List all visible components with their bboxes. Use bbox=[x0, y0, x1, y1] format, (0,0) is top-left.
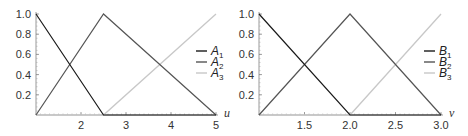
y-tick-label: 0.4 bbox=[239, 69, 254, 81]
y-tick-label: 0.8 bbox=[16, 28, 31, 40]
x-axis-label: u bbox=[224, 106, 230, 120]
x-tick-label: 4 bbox=[168, 119, 174, 131]
y-tick-label: 1.0 bbox=[239, 8, 254, 20]
fuzzy-membership-charts: 23450.20.40.60.81.0uA1A2A31.52.02.53.00.… bbox=[0, 0, 468, 136]
chart-panel-2: 1.52.02.53.00.20.40.60.81.0vB1B2B3 bbox=[239, 8, 455, 131]
series-line-A1 bbox=[36, 14, 216, 115]
x-axis-label: v bbox=[449, 106, 455, 120]
y-tick-label: 0.4 bbox=[16, 69, 31, 81]
x-tick-label: 2.0 bbox=[342, 119, 357, 131]
y-tick-label: 0.2 bbox=[239, 89, 254, 101]
series-line-B2 bbox=[259, 14, 441, 115]
x-tick-label: 2.5 bbox=[388, 119, 403, 131]
series-line-A2 bbox=[36, 14, 216, 115]
y-tick-label: 0.6 bbox=[239, 48, 254, 60]
y-tick-label: 0.6 bbox=[16, 48, 31, 60]
x-tick-label: 1.5 bbox=[297, 119, 312, 131]
series-line-A3 bbox=[36, 14, 216, 115]
x-tick-label: 3.0 bbox=[433, 119, 448, 131]
x-tick-label: 5 bbox=[213, 119, 219, 131]
series-line-B3 bbox=[259, 14, 441, 115]
y-tick-label: 1.0 bbox=[16, 8, 31, 20]
chart-panel-1: 23450.20.40.60.81.0uA1A2A3 bbox=[16, 8, 230, 131]
x-tick-label: 3 bbox=[123, 119, 129, 131]
series-line-B1 bbox=[259, 14, 441, 115]
y-tick-label: 0.2 bbox=[16, 89, 31, 101]
x-tick-label: 2 bbox=[78, 119, 84, 131]
y-tick-label: 0.8 bbox=[239, 28, 254, 40]
